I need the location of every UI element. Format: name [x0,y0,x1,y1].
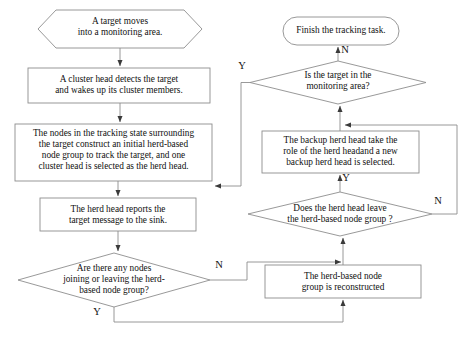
node-shape-start[interactable] [38,10,202,48]
node-shape-nodes-construct-herd[interactable] [15,124,212,181]
edge-target-in-area-yes-to-construct [215,83,250,187]
node-shape-nodes-joining-leaving[interactable] [18,253,210,307]
node-shape-backup-herd-head[interactable] [262,131,419,173]
node-shape-finish[interactable] [283,17,399,45]
node-shape-herd-head-reports[interactable] [40,198,196,231]
node-shape-group-reconstructed[interactable] [265,265,421,298]
edge-joining-leaving-yes-loop [114,300,343,322]
node-shape-herd-head-leave[interactable] [248,192,432,236]
node-shape-target-in-area[interactable] [250,61,426,104]
flowchart-canvas [0,0,467,342]
node-shape-cluster-head-detects[interactable] [28,68,210,103]
